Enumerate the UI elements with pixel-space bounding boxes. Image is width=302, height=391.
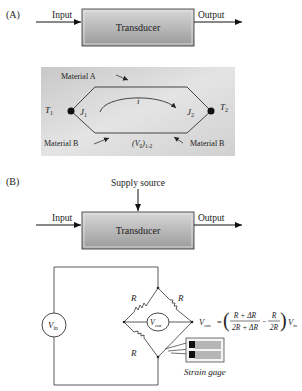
transducer-label-b: Transducer (116, 225, 161, 236)
frac2-denominator: 2R (270, 323, 279, 332)
material-b-left-label: Material B (44, 139, 78, 148)
junction-1-dot (68, 108, 75, 115)
frac1-denominator: 2R + ΔR (232, 323, 259, 332)
material-b-right-label: Material B (190, 139, 224, 148)
formula-minus: − (262, 317, 267, 326)
panel-b: (B) Supply source Input Transducer Outpu… (6, 176, 298, 385)
strain-gage-label: Strain gage (184, 367, 226, 377)
input-label-b: Input (52, 213, 72, 223)
strain-gage (165, 338, 224, 362)
formula-equals: = (217, 317, 222, 327)
panel-b-label: (B) (6, 176, 19, 188)
output-label: Output (198, 10, 225, 20)
resistor-label-top-right: R (177, 293, 184, 303)
formula-rhs: Vin (288, 317, 298, 328)
supply-source-label: Supply source (111, 178, 165, 188)
gage-tab-2 (189, 351, 195, 358)
resistor-label-bottom-left: R (130, 348, 137, 358)
formula-right-paren: ) (280, 309, 287, 332)
node-bottom (157, 356, 160, 359)
node-left (123, 321, 126, 324)
panel-a-label: (A) (6, 9, 20, 21)
formula-lhs: Vout (199, 317, 211, 328)
wheatstone-bridge (54, 267, 192, 385)
material-a-label: Material A (61, 72, 96, 81)
resistor-label-top-left: R (130, 293, 137, 303)
vout-formula: Vout = ( R + ΔR 2R + ΔR − R 2R ) Vin (199, 309, 298, 332)
transducer-label: Transducer (116, 22, 161, 33)
gage-tab-1 (189, 341, 195, 348)
transducer-diagram: (A) Input Transducer Output i Material A… (0, 0, 302, 391)
formula-left-paren: ( (223, 309, 230, 332)
frac2-numerator: R (271, 311, 277, 320)
input-label: Input (52, 10, 72, 20)
output-label-b: Output (198, 213, 225, 223)
wire-bottom (54, 337, 158, 385)
panel-a: (A) Input Transducer Output i Material A… (6, 9, 242, 156)
node-right (191, 321, 194, 324)
frac1-numerator: R + ΔR (233, 311, 257, 320)
junction-2-dot (208, 108, 215, 115)
node-top (157, 287, 160, 290)
